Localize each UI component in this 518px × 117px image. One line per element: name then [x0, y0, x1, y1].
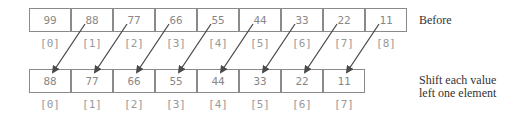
- shift-arrows-icon: [0, 0, 518, 117]
